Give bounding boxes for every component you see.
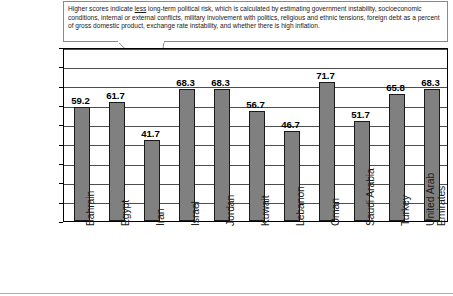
annotation-callout-box: Higher scores indicate less long-term po… [63,1,448,42]
bar-value-label: 68.3 [166,77,206,88]
y-axis-tick-mark [59,67,63,68]
x-axis-tick-label: Saudi Arabia [365,168,376,226]
gridline [64,68,447,69]
plot-inner [64,49,447,221]
y-axis-tick-mark [59,203,63,204]
x-axis-tick-label: Iran [155,208,166,226]
x-axis-tick-label: Lebanon [295,186,306,226]
bar-value-label: 56.7 [236,99,276,110]
bar-value-label: 59.2 [61,95,101,106]
gridline [64,49,447,50]
bar-value-label: 61.7 [96,90,136,101]
y-axis-tick-mark [59,125,63,126]
bar-value-label: 51.7 [341,109,381,120]
y-axis-tick-mark [59,183,63,184]
y-axis-tick-mark [59,87,63,88]
plot-area [63,48,448,222]
annotation-emphasis-word: less [135,5,147,12]
bar-value-label: 71.7 [306,70,346,81]
y-axis-tick-mark [59,164,63,165]
y-axis-tick-mark [59,145,63,146]
x-axis-tick-label: Oman [330,198,341,226]
x-axis-tick-label: Jordan [225,195,236,226]
y-axis-tick-mark [59,48,63,49]
x-axis-tick-label: Egypt [120,200,131,226]
bar-value-label: 65.8 [376,82,416,93]
bar-value-label: 41.7 [131,128,171,139]
bottom-divider [0,293,453,294]
x-axis-tick-label: Turkey [400,195,411,226]
annotation-pre-text: Higher scores indicate [68,5,135,12]
y-axis-tick-mark [59,222,63,223]
x-axis-tick-label: Israel [190,201,201,226]
chart-figure: Higher scores indicate less long-term po… [0,0,453,296]
annotation-text: Higher scores indicate less long-term po… [68,5,443,31]
x-axis-tick-label: Kuwait [260,195,271,226]
bar-value-label: 68.3 [411,77,451,88]
x-axis-tick-label: Bahrain [85,191,96,226]
y-axis-tick-mark [59,106,63,107]
bar-value-label: 68.3 [201,77,241,88]
x-axis-tick-label: United Arab Emirates [426,173,448,226]
bar-value-label: 46.7 [271,119,311,130]
